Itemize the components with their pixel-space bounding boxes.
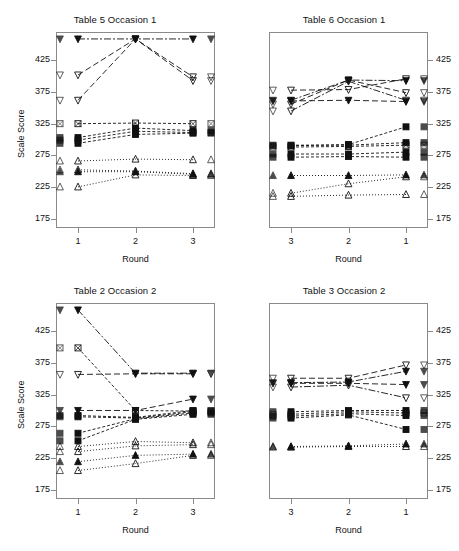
edge-marker-right [208, 156, 215, 163]
data-point-marker [403, 395, 410, 402]
x-tick-mark [406, 499, 407, 504]
data-point-marker [403, 382, 410, 389]
edge-marker-right [421, 426, 427, 432]
x-tick-mark [349, 499, 350, 504]
y-tick-mark [51, 124, 56, 125]
edge-marker-left [270, 154, 276, 160]
y-tick-label: 375 [22, 357, 50, 367]
y-tick-mark [51, 363, 56, 364]
y-tick-mark [51, 458, 56, 459]
y-tick-mark [428, 490, 433, 491]
edge-marker-left [57, 307, 64, 314]
y-tick-mark [51, 426, 56, 427]
x-tick-label: 3 [281, 236, 301, 246]
x-tick-label: 3 [281, 507, 301, 517]
y-tick-label: 175 [436, 213, 451, 223]
data-point-marker [190, 130, 196, 136]
data-point-marker [288, 172, 295, 179]
y-tick-label: 175 [436, 484, 451, 494]
panel-table5-occasion1: Table 5 Occasion 1 Scale Score Round 425… [0, 14, 230, 276]
data-point-marker [403, 124, 409, 130]
y-tick-label: 425 [436, 325, 451, 335]
x-axis-label: Round [329, 525, 369, 535]
x-tick-mark [78, 499, 79, 504]
edge-marker-right [421, 382, 428, 389]
y-tick-label: 225 [22, 452, 50, 462]
edge-marker-left [270, 415, 276, 421]
y-tick-mark [51, 155, 56, 156]
edge-marker-left [270, 172, 277, 179]
data-point-marker [403, 426, 409, 432]
x-axis-label: Round [116, 254, 156, 264]
edge-marker-right [421, 90, 428, 97]
y-tick-label: 275 [436, 149, 451, 159]
edge-marker-right [208, 396, 215, 403]
y-tick-mark [428, 395, 433, 396]
data-point-marker [133, 416, 139, 422]
data-point-marker [190, 36, 197, 43]
y-tick-label: 225 [436, 181, 451, 191]
edge-marker-left [57, 430, 63, 436]
y-tick-mark [428, 60, 433, 61]
x-tick-label: 3 [183, 507, 203, 517]
edge-marker-left [57, 458, 64, 465]
edge-marker-left [57, 345, 63, 351]
x-tick-mark [136, 228, 137, 233]
y-tick-label: 425 [436, 54, 451, 64]
edge-marker-left [57, 157, 64, 164]
y-tick-mark [428, 187, 433, 188]
x-tick-mark [291, 228, 292, 233]
y-tick-label: 325 [436, 389, 451, 399]
edge-marker-left [57, 448, 64, 455]
edge-marker-left [57, 72, 64, 79]
edge-marker-right [421, 413, 427, 419]
multi-panel-line-chart-figure: Table 5 Occasion 1 Scale Score Round 425… [0, 0, 459, 551]
y-tick-label: 225 [436, 452, 451, 462]
y-tick-mark [51, 92, 56, 93]
x-tick-label: 1 [68, 507, 88, 517]
x-tick-label: 2 [126, 507, 146, 517]
edge-marker-left [57, 36, 64, 43]
y-tick-label: 425 [22, 325, 50, 335]
x-axis-label: Round [116, 525, 156, 535]
series-line [291, 365, 406, 378]
x-tick-label: 2 [339, 507, 359, 517]
y-tick-mark [428, 219, 433, 220]
y-tick-label: 425 [22, 54, 50, 64]
y-tick-mark [51, 60, 56, 61]
y-tick-label: 325 [436, 118, 451, 128]
data-point-marker [75, 458, 82, 465]
edge-marker-right [208, 36, 215, 43]
edge-marker-left [57, 467, 64, 474]
edge-marker-right [421, 99, 428, 106]
x-tick-label: 1 [396, 236, 416, 246]
y-tick-label: 375 [22, 86, 50, 96]
edge-marker-right [421, 395, 428, 402]
y-tick-label: 275 [436, 420, 451, 430]
data-point-marker [403, 413, 409, 419]
data-point-marker [75, 414, 81, 420]
data-point-marker [75, 430, 81, 436]
x-tick-label: 2 [126, 236, 146, 246]
edge-marker-right [421, 124, 427, 130]
x-tick-mark [193, 228, 194, 233]
data-point-marker [403, 154, 409, 160]
data-point-marker [403, 362, 410, 369]
data-point-marker [288, 415, 294, 421]
y-tick-mark [428, 363, 433, 364]
data-point-marker [133, 131, 139, 137]
panel-table3-occasion2: Table 3 Occasion 2 Round 425375325275225… [229, 285, 459, 547]
data-point-marker [403, 78, 410, 85]
data-point-marker [346, 412, 352, 418]
y-tick-label: 325 [22, 118, 50, 128]
y-tick-mark [51, 395, 56, 396]
y-tick-label: 375 [436, 357, 451, 367]
y-tick-mark [51, 331, 56, 332]
edge-marker-right [208, 411, 214, 417]
series-line [78, 175, 193, 187]
y-tick-mark [428, 155, 433, 156]
data-point-marker [190, 411, 196, 417]
x-tick-mark [406, 228, 407, 233]
y-tick-mark [51, 219, 56, 220]
edge-marker-left [270, 108, 277, 115]
